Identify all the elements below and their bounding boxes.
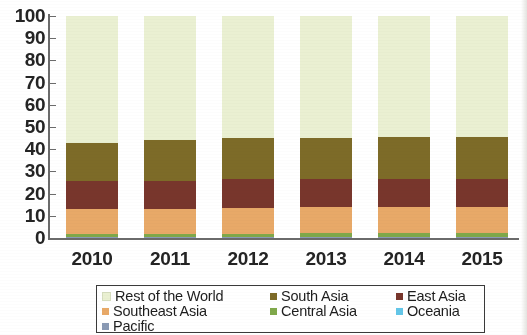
legend-label: South Asia [281, 289, 348, 304]
legend-label: Southeast Asia [113, 304, 207, 319]
y-tick-label: 40 [5, 139, 45, 158]
bar-segment-south-asia [378, 137, 430, 179]
x-tick-label-2015: 2015 [442, 248, 522, 270]
bar-segment-east-asia [144, 181, 196, 209]
bar-segment-east-asia [222, 179, 274, 208]
plot-area [49, 16, 519, 238]
x-tick-label-2010: 2010 [52, 248, 132, 270]
chart-legend: Rest of the WorldSouth AsiaEast AsiaSout… [96, 285, 485, 333]
bar-segment-pacific [378, 237, 430, 238]
legend-swatch-icon [102, 323, 109, 330]
y-tick-label: 80 [5, 50, 45, 69]
bar-segment-southeast-asia [456, 207, 508, 233]
y-tick-label: 20 [5, 184, 45, 203]
bar-segment-pacific [222, 237, 274, 238]
bar-segment-south-asia [222, 138, 274, 179]
bar-segment-southeast-asia [222, 208, 274, 233]
x-tick-label-2012: 2012 [208, 248, 288, 270]
y-tick-label: 30 [5, 161, 45, 180]
bar-segment-southeast-asia [144, 209, 196, 233]
legend-swatch-icon [270, 293, 277, 300]
legend-label: Pacific [113, 319, 154, 334]
y-tick-label: 100 [5, 6, 45, 25]
y-tick-mark [50, 238, 56, 239]
legend-item-central-asia[interactable]: Central Asia [270, 304, 396, 319]
x-axis-line [48, 238, 519, 240]
bar-segment-rest-of-the-world [300, 16, 352, 138]
bar-segment-south-asia [144, 140, 196, 180]
y-tick-label: 60 [5, 95, 45, 114]
y-tick-label: 10 [5, 206, 45, 225]
bar-segment-rest-of-the-world [144, 16, 196, 140]
legend-item-southeast-asia[interactable]: Southeast Asia [102, 304, 270, 319]
bar-segment-east-asia [456, 179, 508, 207]
legend-swatch-icon [396, 293, 403, 300]
x-tick-label-2011: 2011 [130, 248, 210, 270]
bar-segment-east-asia [378, 179, 430, 207]
y-tick-label: 90 [5, 28, 45, 47]
bar-segment-southeast-asia [66, 209, 118, 233]
legend-item-oceania[interactable]: Oceania [396, 304, 480, 319]
bar-segment-rest-of-the-world [378, 16, 430, 137]
legend-item-rest-of-the-world[interactable]: Rest of the World [102, 289, 270, 304]
bar-segment-south-asia [66, 143, 118, 182]
bar-segment-rest-of-the-world [456, 16, 508, 137]
legend-swatch-icon [102, 292, 111, 301]
legend-label: Rest of the World [115, 289, 223, 304]
bar-segment-south-asia [456, 137, 508, 179]
bar-segment-southeast-asia [300, 207, 352, 233]
y-tick-label: 50 [5, 117, 45, 136]
x-tick-label-2013: 2013 [286, 248, 366, 270]
bar-segment-pacific [300, 237, 352, 238]
legend-item-south-asia[interactable]: South Asia [270, 289, 396, 304]
y-tick-label: 0 [5, 228, 45, 247]
y-tick-label: 70 [5, 73, 45, 92]
bar-segment-east-asia [66, 181, 118, 209]
y-axis-tick-labels: 1009080706050403020100 [0, 0, 45, 260]
x-tick-label-2014: 2014 [364, 248, 444, 270]
bar-segment-pacific [66, 237, 118, 238]
legend-swatch-icon [396, 308, 403, 315]
legend-label: East Asia [407, 289, 466, 304]
legend-grid: Rest of the WorldSouth AsiaEast AsiaSout… [102, 289, 480, 334]
bar-segment-pacific [456, 237, 508, 238]
legend-swatch-icon [102, 308, 109, 315]
legend-swatch-icon [270, 308, 277, 315]
bar-segment-rest-of-the-world [222, 16, 274, 138]
legend-item-east-asia[interactable]: East Asia [396, 289, 480, 304]
bar-2010 [66, 16, 118, 238]
stacked-bar-chart: 1009080706050403020100 20102011201220132… [0, 0, 527, 335]
legend-label: Oceania [407, 304, 460, 319]
bar-segment-southeast-asia [378, 207, 430, 233]
bar-2013 [300, 16, 352, 238]
legend-label: Central Asia [281, 304, 357, 319]
bar-segment-pacific [144, 237, 196, 238]
bar-segment-south-asia [300, 138, 352, 179]
bar-2014 [378, 16, 430, 238]
bar-segment-east-asia [300, 179, 352, 207]
bar-2012 [222, 16, 274, 238]
bar-2015 [456, 16, 508, 238]
bar-segment-rest-of-the-world [66, 16, 118, 143]
bar-2011 [144, 16, 196, 238]
legend-item-pacific[interactable]: Pacific [102, 319, 270, 334]
